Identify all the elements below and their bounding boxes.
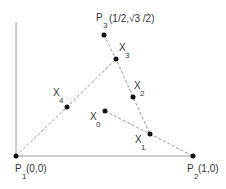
label-x4-sub: 4 [59,97,63,105]
point-p1 [14,154,19,159]
label-p2: P [187,164,194,174]
label-p3-sub: 3 [103,22,107,30]
label-x0-sub: 0 [96,121,100,129]
dashed-paths [16,35,193,156]
label-p1-sub: 1 [22,173,26,181]
chaos-game-diagram [0,0,226,189]
label-p3-coord: (1/2,√3 /2) [109,14,155,24]
point-x4 [65,105,70,110]
point-x0 [103,109,108,114]
label-x1-sub: 1 [141,144,145,152]
point-x1 [148,132,153,137]
dashed-path-1 [104,35,150,134]
label-p2-coord: (1,0) [198,164,219,174]
points [14,33,196,159]
label-p2-sub: 2 [194,173,198,181]
label-p1-coord: (0,0) [26,164,47,174]
label-x3-sub: 3 [125,52,129,60]
point-x2 [131,95,136,100]
label-p1: P [15,164,22,174]
label-p3: P [96,13,103,23]
point-p2 [191,154,196,159]
label-x2-sub: 2 [140,90,144,98]
point-p3 [102,33,107,38]
point-x3 [114,57,119,62]
